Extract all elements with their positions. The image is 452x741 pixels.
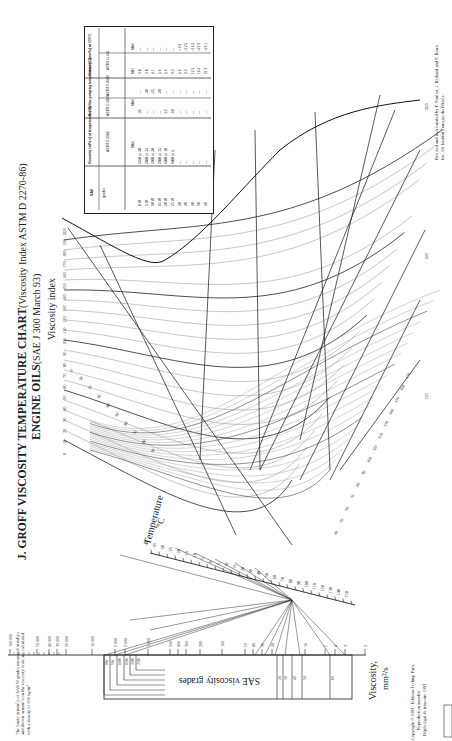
- vi-lower-tick-label: 40: [105, 402, 111, 408]
- temperature-tick-label: -5: [200, 557, 205, 561]
- header-max: MAX: [131, 42, 135, 50]
- vi-arc-label: 100: [366, 456, 373, 464]
- header-max: MAX: [131, 140, 135, 148]
- viscosity-tick-label: 20: [270, 643, 275, 647]
- table-cell-pumping-d3829: —: [191, 110, 195, 114]
- vi-tick-label: 180: [62, 250, 67, 258]
- vi-arc-label: 140: [388, 408, 395, 416]
- table-cell-pumping-d3829: —: [184, 110, 188, 114]
- table-cell-kv-min: 4.1: [151, 69, 155, 74]
- table-cell-pumping-d3829: —: [151, 110, 155, 114]
- sae-grade-label: 40: [293, 676, 297, 680]
- vi-lower-curve: [90, 446, 343, 482]
- temperature-axis-line: [150, 553, 355, 605]
- temperature-ray: [255, 130, 260, 470]
- table-cell-pumping-d4684: —: [164, 90, 168, 94]
- vi-tick-label: 10: [62, 439, 67, 444]
- header-max: MAX: [131, 98, 135, 106]
- sae-grade-label: 10W: [118, 657, 122, 665]
- temperature-tick-label: 15: [232, 565, 237, 569]
- vi-tick-label: 120: [62, 316, 67, 324]
- credits-right: Revised and recalculated by P. Pouliot, …: [434, 44, 445, 160]
- vi-arc-label: 130: [382, 420, 389, 428]
- temperature-tick-label: -20: [176, 549, 181, 555]
- vi-lower-tick-label: 10: [78, 375, 84, 381]
- table-cell-kv-min: 9.3: [184, 69, 188, 74]
- viscosity-tick-label: 2: [363, 645, 368, 647]
- vi-tick-label: 200: [62, 228, 67, 236]
- table-cell-kv-min: 16.3: [197, 68, 201, 74]
- vi-curve: [64, 430, 300, 497]
- table-cell-grade: 10 W: [151, 197, 155, 206]
- vi-lower-curve: [90, 332, 414, 437]
- viscosity-tick-label: 50: [243, 643, 248, 647]
- vi-tick-label: 110: [62, 327, 67, 334]
- viscosity-tick-label: 500: [168, 641, 173, 647]
- header-cranking: Viscosity (mPa.s) at temperature (°C): [88, 106, 92, 164]
- vi-arc-label: 70: [349, 494, 355, 500]
- sae-grade-label: 30: [284, 676, 288, 680]
- construction-line: [115, 600, 292, 655]
- temperature-tick-label: 120: [320, 585, 325, 591]
- table-cell-grade: 5 W: [145, 199, 149, 206]
- credits-left: Copyright © 1993 - Editions Technip Pari…: [410, 664, 427, 740]
- viscosity-tick-label: 200: [198, 641, 203, 647]
- table-cell-pumping-d3829: —: [158, 110, 162, 114]
- table-cell-cranking: —: [197, 160, 201, 164]
- viscosity-tick-label: 4: [333, 645, 338, 647]
- table-cell-kv-min: 5.6: [158, 69, 162, 74]
- temperature-tick-label: 30: [248, 569, 253, 573]
- vi-tick-label: 70: [62, 373, 67, 378]
- table-cell-pumping-d4684: -20: [158, 89, 162, 94]
- sae-grade-label: 20: [278, 676, 282, 680]
- temperature-axis: -40-35-30-25-20-15-10-505101520304050607…: [141, 493, 355, 605]
- table-cell-kv-max: —: [138, 47, 142, 51]
- table-cell-kv-min: 21.9: [204, 68, 208, 74]
- viscosity-unit: mm²/s: [380, 667, 390, 690]
- sae-grade-label: 15W: [125, 657, 129, 665]
- vi-curve: [64, 216, 412, 284]
- table-cell-grade: 15 W: [158, 197, 162, 206]
- viscosity-tick-label: 30 000: [55, 636, 60, 647]
- temperature-ray: [300, 230, 425, 480]
- title-main: J. GROFF VISCOSITY TEMPERATURE CHART: [16, 308, 28, 560]
- table-cell-kv-max: —: [164, 47, 168, 51]
- vi-tick-label: 140: [62, 294, 67, 302]
- credits-right-line2: Inc. 94. Institut Français du Pétrole.: [440, 94, 445, 160]
- header-sae: SAE: [90, 188, 94, 196]
- table-cell-pumping-d3829: -10: [171, 109, 175, 114]
- table-cell-cranking: —: [204, 160, 208, 164]
- table-cell-kv-max: <21.9: [197, 43, 201, 51]
- vi-tick-label: 0: [62, 452, 67, 455]
- table-cell-pumping-d3829: -15: [164, 109, 168, 114]
- vi-lower-tick-label: 30: [96, 393, 102, 399]
- vi-arc-label: 90: [360, 470, 366, 476]
- header-min: MIN: [131, 67, 135, 74]
- temperature-tick-label: 50: [264, 573, 269, 577]
- table-cell-pumping-d4684: —: [138, 90, 142, 94]
- vi-tick-label: 190: [62, 239, 67, 247]
- table-cell-kv-min: 3.8: [138, 69, 142, 74]
- temperature-tick-label: 40: [256, 571, 261, 575]
- temperature-tick-label: -15: [184, 551, 189, 557]
- vi-tick-label: 40: [62, 406, 67, 411]
- svg-text:ENGINE OILS(SAE J 300 March 93: ENGINE OILS(SAE J 300 March 93): [30, 274, 43, 440]
- vi-tick-label: 100: [62, 338, 67, 346]
- construction-line: [275, 600, 292, 655]
- table-cell-pumping-d4684: —: [184, 90, 188, 94]
- table-cell-pumping-d3829: —: [204, 110, 208, 114]
- vi-arc-label: 80: [355, 482, 361, 488]
- table-cell-kv-max: —: [151, 47, 155, 51]
- table-cell-pumping-d3829: -35: [138, 109, 142, 114]
- vi-curve: [64, 400, 322, 453]
- vi-curve: [64, 380, 337, 424]
- viscosity-label: Viscosity,: [367, 661, 378, 700]
- temperature-tick-label: 130: [328, 587, 333, 593]
- table-cell-grade: 40: [191, 202, 195, 206]
- vi-tick-label: 30: [62, 417, 67, 422]
- table-cell-cranking: 4500 at -10: [164, 148, 168, 164]
- sae-grade-label: 0W: [105, 659, 109, 665]
- sae-grade-label: 25W: [137, 657, 141, 665]
- viscosity-tick-label: 400: [176, 641, 181, 647]
- svg-text:J. GROFF VISCOSITY TEMPERATURE: J. GROFF VISCOSITY TEMPERATURE CHART(Vis…: [16, 164, 29, 561]
